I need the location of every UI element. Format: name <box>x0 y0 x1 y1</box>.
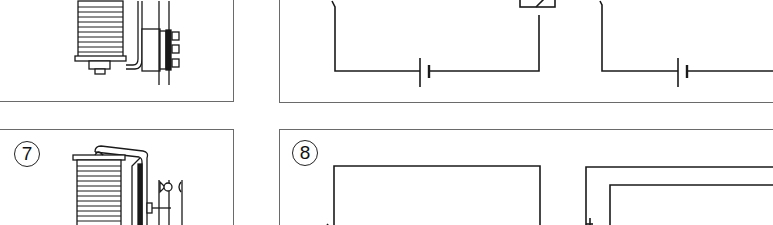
circuit-schematic-panel-8: 8 <box>279 129 773 225</box>
circuit-drawing-top <box>280 0 773 104</box>
circuit-schematic-panel-top <box>279 0 773 103</box>
relay-illustration-panel-top <box>0 0 234 102</box>
circuit-drawing-8 <box>280 130 773 225</box>
relay-drawing-7 <box>0 130 235 225</box>
relay-illustration-panel-7: 7 <box>0 129 234 225</box>
relay-drawing-top <box>0 0 235 103</box>
